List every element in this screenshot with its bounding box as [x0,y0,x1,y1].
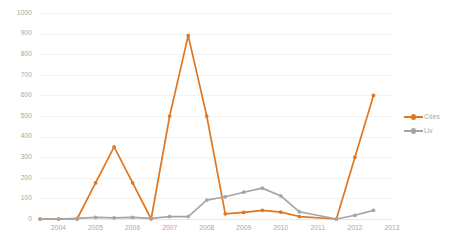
legend-marker [411,128,416,133]
x-axis-tick-label: 2010 [273,225,288,232]
x-axis-tick-label: 2013 [384,225,399,232]
x-axis-tick-label: 2005 [88,225,103,232]
x-axis-tick-label: 2011 [311,225,326,232]
legend-item-liv[interactable]: Liv [404,124,452,138]
x-axis: 2004200520062007200820092010201120122013 [0,0,452,243]
legend: CdesLiv [404,110,452,138]
circle-marker [404,127,423,135]
x-axis-tick-label: 2004 [51,225,66,232]
x-axis-tick-label: 2008 [199,225,214,232]
x-axis-tick-label: 2012 [347,225,362,232]
x-axis-tick-label: 2009 [236,225,251,232]
circle-marker [404,113,423,121]
x-axis-tick-label: 2007 [162,225,177,232]
line-chart: 01002003004005006007008009001000 2004200… [0,0,452,243]
legend-marker [411,114,416,119]
x-axis-tick-label: 2006 [125,225,140,232]
legend-item-label: Cdes [423,114,440,121]
legend-item-label: Liv [423,128,433,135]
legend-item-cdes[interactable]: Cdes [404,110,452,124]
